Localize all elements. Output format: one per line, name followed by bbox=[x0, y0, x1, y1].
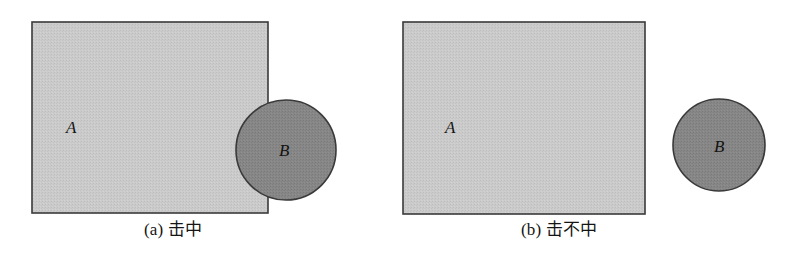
figure-container: A B A B (a) 击中 (b) 击不中 bbox=[0, 0, 792, 261]
panel-b-rect-A bbox=[403, 22, 645, 214]
panel-b-label-A: A bbox=[444, 118, 456, 137]
panel-b: A B bbox=[403, 22, 765, 214]
panel-b-label-B: B bbox=[714, 137, 725, 156]
figure-canvas: A B A B bbox=[0, 0, 792, 261]
panel-a-label-B: B bbox=[279, 141, 290, 160]
panel-b-caption: (b) 击不中 bbox=[521, 220, 597, 240]
panel-a-caption: (a) 击中 bbox=[144, 220, 202, 240]
panel-a: A B bbox=[32, 22, 336, 213]
panel-a-label-A: A bbox=[65, 118, 77, 137]
